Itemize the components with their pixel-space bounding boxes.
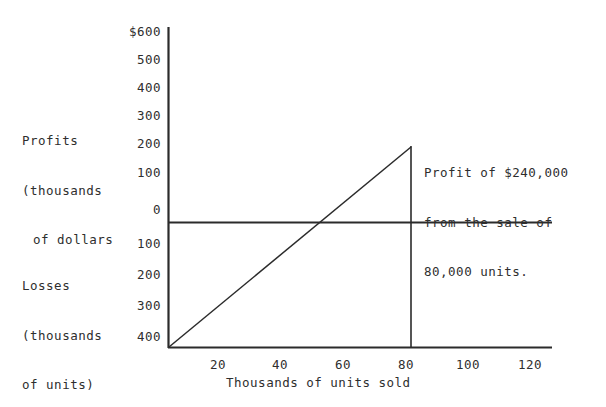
y-axis-label-profits-line1: Profits [22,133,113,150]
y-tick-600: $600 [99,25,161,39]
y-axis-label-profits-line2: (thousands [22,183,113,200]
profit-loss-line [169,147,411,347]
y-axis-label-losses-line1: Losses [22,278,102,295]
y-tick-minus-400: 400 [99,330,161,344]
profit-loss-chart: $600 500 400 300 200 100 0 100 200 300 4… [0,0,606,407]
x-tick-80: 80 [386,358,426,372]
profit-annotation-line3: 80,000 units. [424,264,568,281]
x-axis-title: Thousands of units sold [226,375,411,390]
y-axis-label-losses: Losses (thousands of units) [22,245,102,407]
y-tick-minus-300: 300 [99,299,161,313]
x-tick-120: 120 [510,358,550,372]
x-tick-100: 100 [448,358,488,372]
y-axis-label-losses-line2: (thousands [22,328,102,345]
profit-annotation: Profit of $240,000 from the sale of 80,0… [424,132,568,314]
x-tick-40: 40 [260,358,300,372]
profit-annotation-line1: Profit of $240,000 [424,165,568,182]
y-tick-400: 400 [99,81,161,95]
profit-annotation-line2: from the sale of [424,215,568,232]
y-tick-500: 500 [99,53,161,67]
x-tick-20: 20 [198,358,238,372]
x-tick-60: 60 [323,358,363,372]
y-axis-label-losses-line3: of units) [22,377,102,394]
